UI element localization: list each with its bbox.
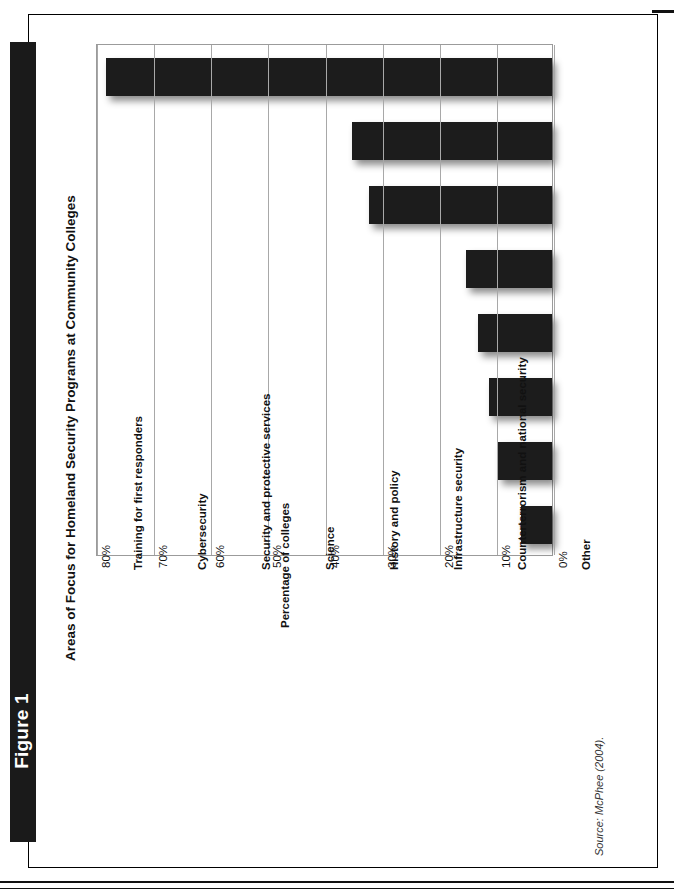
axis-tick-label: 10% [500,545,512,568]
axis-tick-label: 70% [157,545,169,568]
category-label: History and policy [388,470,400,570]
chart-annotations: 0%10%20%30%40%50%60%70%80%Training for f… [0,0,674,889]
category-label: Infrastructure security [452,448,464,570]
category-label: Security and protective services [260,394,272,570]
category-label: Science [324,527,336,570]
category-label: Other [580,539,592,570]
page-trim-rule-bottom [0,881,674,883]
rotated-figure-layer: Figure 1 Areas of Focus for Homeland Sec… [0,0,674,889]
category-label: Cybersecurity [196,493,208,570]
category-label: Training for first responders [132,416,144,570]
axis-tick-label: 80% [100,545,112,568]
category-label: Counterterrorism and national security [516,357,528,570]
axis-tick-label: 60% [214,545,226,568]
source-note: Source: McPhee (2004). [593,737,605,856]
value-axis-title: Percentage of colleges [279,503,291,628]
figure-page: Figure 1 Areas of Focus for Homeland Sec… [0,0,674,889]
axis-tick-label: 0% [557,551,569,568]
